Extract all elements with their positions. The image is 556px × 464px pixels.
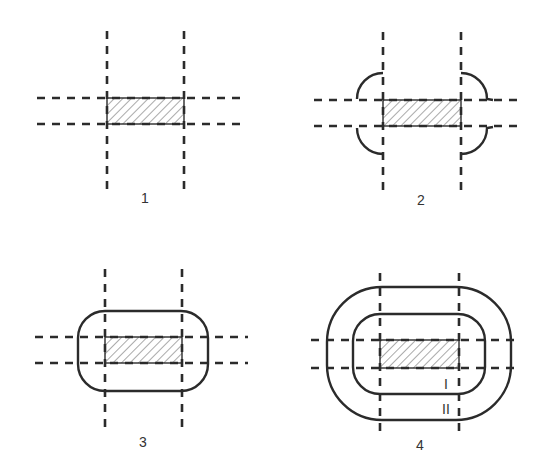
zone-label-i: I bbox=[444, 376, 448, 392]
panel-2: 2 bbox=[314, 32, 524, 208]
hatched-core bbox=[107, 98, 184, 124]
panel-label: 4 bbox=[416, 437, 424, 453]
panel-label: 3 bbox=[139, 434, 147, 450]
hatched-core bbox=[105, 337, 182, 363]
panel-1: 1 bbox=[37, 31, 247, 206]
panel-label: 1 bbox=[141, 190, 149, 206]
panel-4: I II 4 bbox=[311, 273, 521, 453]
hatched-core bbox=[380, 340, 459, 368]
panel-label: 2 bbox=[417, 192, 425, 208]
diagram-canvas: 1 2 3 I II 4 bbox=[0, 0, 556, 464]
panel-3: 3 bbox=[35, 269, 248, 450]
hatched-core bbox=[383, 100, 461, 126]
zone-label-ii: II bbox=[442, 401, 450, 417]
